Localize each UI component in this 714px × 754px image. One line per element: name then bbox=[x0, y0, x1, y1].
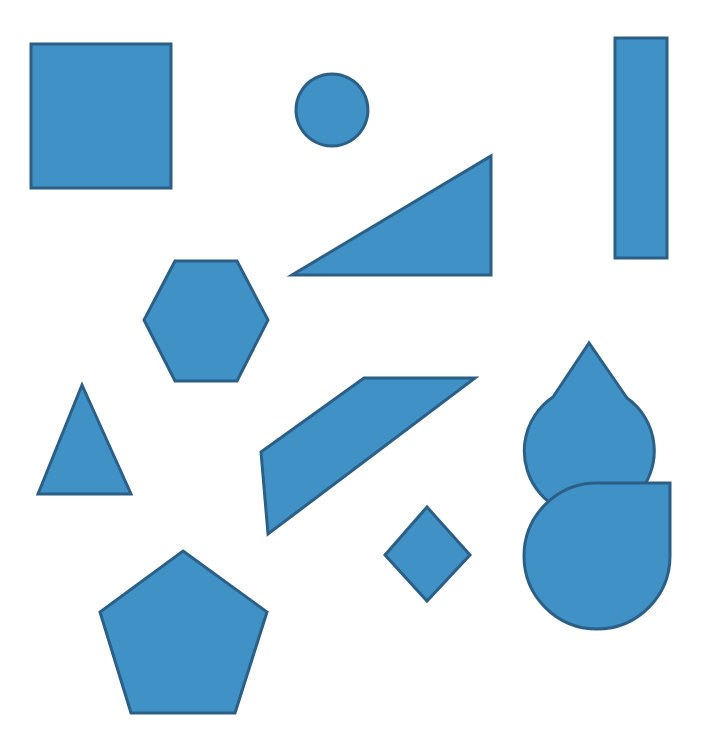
shape-tall-rectangle[interactable] bbox=[615, 38, 667, 258]
shape-circle[interactable] bbox=[296, 74, 368, 146]
shape-teardrop[interactable] bbox=[524, 483, 670, 629]
shape-canvas-wrapper bbox=[0, 0, 714, 754]
shape-square[interactable] bbox=[31, 44, 171, 188]
shape-canvas bbox=[0, 0, 714, 754]
